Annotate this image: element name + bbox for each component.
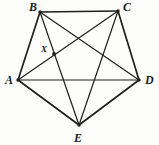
marked-point-label-X: X [41,45,47,54]
edge-EA [18,80,79,125]
vertex-label-A: A [5,74,13,86]
edge-BE [40,12,79,125]
vertex-label-B: B [29,1,37,13]
edge-DE [79,80,139,125]
vertex-dot-B [38,10,41,13]
edge-BD [40,12,139,80]
edge-BC [40,11,118,12]
vertex-label-C: C [123,1,131,13]
vertex-label-E: E [74,132,82,144]
edge-CE [79,11,118,125]
edge-AB [18,12,40,80]
vertex-label-D: D [145,74,154,86]
vertex-dot-A [16,78,19,81]
vertex-dot-D [137,78,140,81]
vertex-dot-E [77,123,80,126]
geometry-figure: ABCDEX [0,0,159,145]
edge-AC [18,11,118,80]
vertex-dot-C [116,9,119,12]
diagram-canvas [0,0,159,145]
edge-CD [118,11,139,80]
marked-point-dot-X [52,52,56,56]
